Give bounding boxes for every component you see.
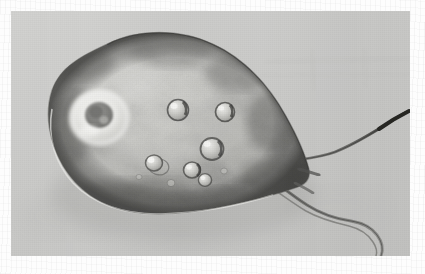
vacuole <box>167 99 189 121</box>
nucleus-inner-highlight <box>100 116 109 124</box>
vacuole <box>215 102 235 122</box>
vacuole <box>183 162 201 179</box>
nucleolus <box>89 106 103 119</box>
figure-root: Grayscale light micrograph of a single p… <box>0 0 425 274</box>
vacuole <box>200 138 224 161</box>
micrograph-canvas <box>11 11 410 256</box>
micrograph-panel <box>11 11 410 256</box>
nucleus <box>69 89 131 147</box>
vacuole <box>198 173 212 187</box>
nucleus-gloss <box>79 125 99 137</box>
